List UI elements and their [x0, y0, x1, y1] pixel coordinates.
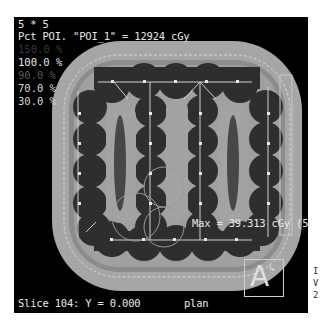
- plan-label: plan: [184, 297, 209, 309]
- mid-dose-lobes: [106, 99, 248, 223]
- orientation-arrow-icon: ↳: [269, 262, 275, 273]
- legend-level-30[interactable]: 30.0 %: [18, 95, 56, 107]
- poi-dose-label: Pct POI. "POI_1" = 12924 cGy: [18, 30, 189, 42]
- legend-level-70[interactable]: 70.0 %: [18, 82, 56, 94]
- legend-level-90[interactable]: 90.0 %: [18, 69, 56, 81]
- side-text-fragment-3: 2: [313, 290, 318, 300]
- slice-position-label: Slice 104: Y = 0.000: [18, 297, 140, 309]
- orientation-letter: A: [250, 262, 269, 292]
- side-text-fragment-2: V: [313, 278, 318, 288]
- grid-label: 5 * 5: [18, 18, 49, 30]
- orientation-marker[interactable]: A ↳: [244, 259, 284, 297]
- max-dose-label: Max = 39.313 cGy (5: [192, 217, 308, 229]
- legend-level-150[interactable]: 150.0 %: [18, 43, 62, 55]
- legend-level-100[interactable]: 100.0 %: [18, 56, 62, 68]
- dose-view-viewport[interactable]: 5 * 5 Pct POI. "POI_1" = 12924 cGy 150.0…: [14, 17, 308, 313]
- side-text-fragment-1: I: [313, 266, 318, 276]
